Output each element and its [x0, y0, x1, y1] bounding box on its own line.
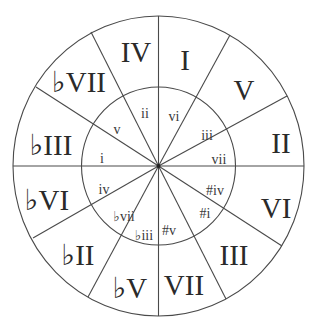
outer-label: III: [220, 239, 249, 271]
outer-label: ♭VI: [25, 184, 69, 216]
inner-label: ♭iii: [135, 228, 153, 243]
outer-label: VI: [261, 192, 292, 224]
inner-label: i: [100, 151, 104, 166]
outer-label: VII: [164, 269, 204, 301]
inner-label: v: [114, 122, 121, 137]
inner-label: vii: [212, 152, 227, 167]
outer-label: II: [271, 127, 290, 159]
inner-label: ♭vii: [113, 209, 134, 224]
outer-label: V: [234, 74, 255, 106]
outer-label: IV: [121, 36, 152, 68]
outer-label: ♭II: [62, 239, 95, 271]
inner-label: vi: [169, 109, 180, 124]
outer-label: ♭VII: [52, 66, 106, 98]
inner-label: iii: [201, 128, 213, 143]
inner-label: #i: [200, 206, 211, 221]
inner-label: #iv: [206, 183, 224, 198]
outer-label: ♭III: [30, 129, 73, 161]
outer-label: I: [180, 44, 190, 76]
inner-label: ii: [141, 106, 149, 121]
inner-label: #v: [162, 223, 176, 238]
center-hub: [157, 164, 161, 168]
degree-wheel-diagram: I V II VI III VII ♭V ♭II ♭VI ♭III ♭VII I…: [0, 0, 316, 332]
outer-label: ♭V: [113, 272, 148, 304]
inner-label: iv: [99, 182, 110, 197]
